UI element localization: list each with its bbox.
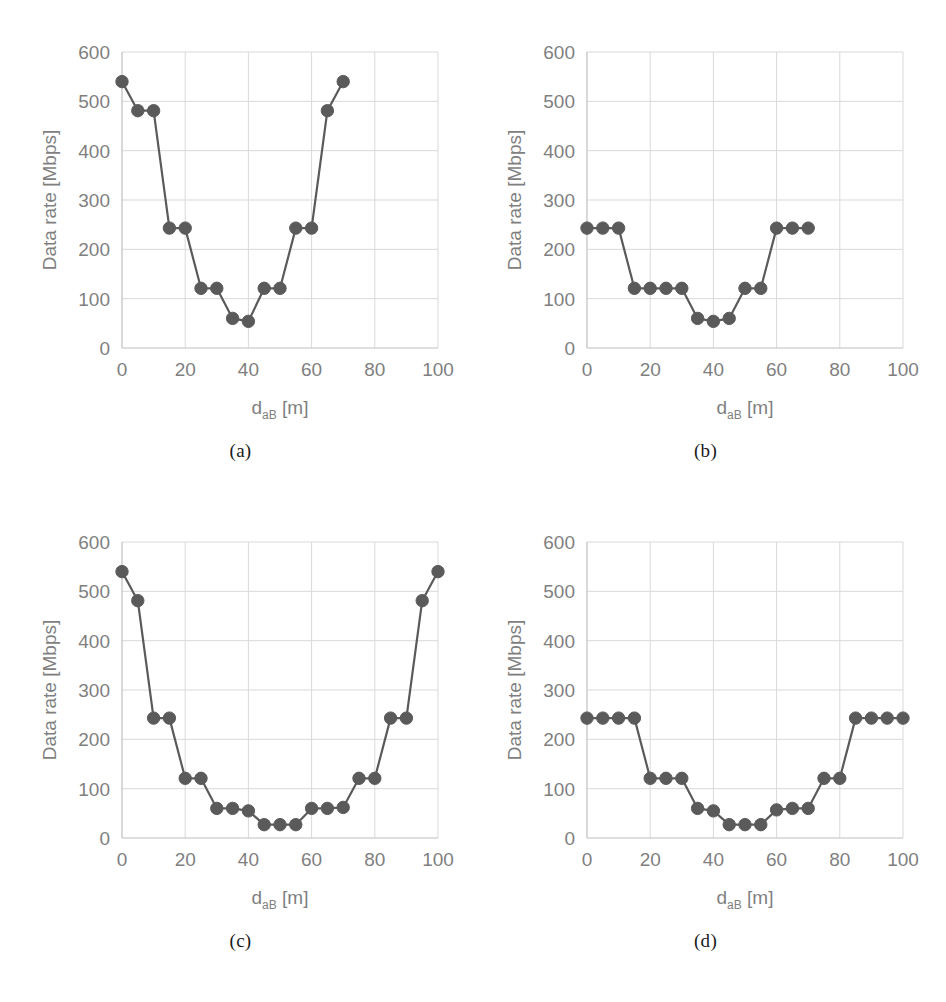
x-axis-title: daB [m]	[251, 887, 308, 912]
data-series-line	[122, 82, 343, 322]
data-series-line	[587, 718, 903, 825]
data-point-marker	[770, 222, 782, 234]
x-axis-title: daB [m]	[251, 397, 308, 422]
y-tick-label: 200	[78, 729, 110, 750]
data-point-marker	[368, 772, 380, 784]
y-tick-labels: 0100200300400500600	[78, 532, 110, 849]
data-point-marker	[644, 772, 656, 784]
y-tick-label: 400	[78, 631, 110, 652]
y-tick-label: 300	[543, 190, 575, 211]
x-tick-label: 60	[766, 359, 787, 380]
panel-caption-c: (c)	[230, 930, 252, 952]
data-point-marker	[384, 712, 396, 724]
data-point-marker	[115, 75, 127, 87]
data-point-marker	[707, 315, 719, 327]
panel-b: 0100200300400500600020406080100daB [m]Da…	[473, 18, 938, 502]
x-axis-title-main: d	[251, 397, 262, 418]
y-tick-labels: 0100200300400500600	[78, 42, 110, 359]
data-point-marker	[147, 105, 159, 117]
chart-b: 0100200300400500600020406080100daB [m]Da…	[491, 18, 921, 438]
x-tick-label: 40	[237, 359, 258, 380]
chart-plot-area: 0100200300400500600020406080100daB [m]Da…	[26, 508, 456, 928]
data-point-marker	[644, 282, 656, 294]
y-tick-label: 500	[543, 91, 575, 112]
data-point-marker	[833, 772, 845, 784]
y-tick-label: 500	[78, 91, 110, 112]
data-point-marker	[675, 282, 687, 294]
x-tick-label: 100	[422, 359, 454, 380]
data-point-marker	[163, 222, 175, 234]
data-series-line	[122, 572, 438, 825]
data-point-marker	[416, 595, 428, 607]
data-point-marker	[273, 282, 285, 294]
data-point-marker	[691, 312, 703, 324]
data-point-marker	[786, 802, 798, 814]
x-tick-label: 0	[581, 359, 592, 380]
y-tick-labels: 0100200300400500600	[543, 42, 575, 359]
y-tick-label: 400	[543, 631, 575, 652]
data-point-marker	[754, 818, 766, 830]
data-point-marker	[337, 75, 349, 87]
data-point-marker	[802, 222, 814, 234]
data-point-marker	[431, 565, 443, 577]
data-point-marker	[596, 222, 608, 234]
x-tick-labels: 020406080100	[116, 849, 453, 870]
x-axis-title-unit: [m]	[741, 397, 773, 418]
gridlines	[587, 52, 903, 348]
chart-plot-area: 0100200300400500600020406080100daB [m]Da…	[491, 508, 921, 928]
data-point-marker	[273, 818, 285, 830]
data-point-marker	[675, 772, 687, 784]
figure-four-panel-data-rate: 0100200300400500600020406080100daB [m]Da…	[0, 0, 946, 1002]
data-point-marker	[896, 712, 908, 724]
y-tick-label: 200	[78, 239, 110, 260]
x-tick-label: 80	[364, 849, 385, 870]
y-tick-label: 100	[543, 779, 575, 800]
x-tick-label: 80	[829, 359, 850, 380]
data-point-marker	[147, 712, 159, 724]
data-point-marker	[881, 712, 893, 724]
data-point-markers	[580, 712, 908, 831]
y-axis-title: Data rate [Mbps]	[504, 130, 525, 270]
y-tick-label: 500	[78, 581, 110, 602]
y-tick-label: 600	[543, 42, 575, 63]
chart-plot-area: 0100200300400500600020406080100daB [m]Da…	[26, 18, 456, 438]
x-axis-title-subscript: aB	[262, 408, 277, 422]
y-axis-title: Data rate [Mbps]	[504, 620, 525, 760]
data-point-marker	[321, 105, 333, 117]
data-point-marker	[352, 772, 364, 784]
x-axis-title-subscript: aB	[262, 898, 277, 912]
data-point-marker	[179, 222, 191, 234]
panel-caption-b: (b)	[694, 440, 717, 462]
x-tick-label: 80	[364, 359, 385, 380]
data-point-marker	[131, 105, 143, 117]
data-point-marker	[865, 712, 877, 724]
x-axis-title-main: d	[716, 397, 727, 418]
data-point-marker	[754, 282, 766, 294]
x-tick-label: 80	[829, 849, 850, 870]
data-point-marker	[337, 801, 349, 813]
data-point-marker	[321, 802, 333, 814]
x-tick-label: 100	[422, 849, 454, 870]
data-point-marker	[194, 282, 206, 294]
data-point-marker	[580, 712, 592, 724]
x-axis-title-subscript: aB	[727, 408, 742, 422]
x-axis-title-subscript: aB	[727, 898, 742, 912]
data-point-marker	[628, 282, 640, 294]
data-point-marker	[258, 818, 270, 830]
y-tick-labels: 0100200300400500600	[543, 532, 575, 849]
data-point-marker	[817, 772, 829, 784]
panel-d: 0100200300400500600020406080100daB [m]Da…	[473, 508, 938, 992]
y-axis-title: Data rate [Mbps]	[39, 620, 60, 760]
panel-caption-a: (a)	[230, 440, 252, 462]
data-point-marker	[131, 595, 143, 607]
x-tick-label: 0	[116, 849, 127, 870]
chart-d: 0100200300400500600020406080100daB [m]Da…	[491, 508, 921, 928]
gridlines	[587, 542, 903, 838]
gridlines	[122, 52, 438, 348]
data-point-marker	[738, 282, 750, 294]
y-axis-title: Data rate [Mbps]	[39, 130, 60, 270]
x-tick-label: 40	[702, 849, 723, 870]
data-point-marker	[691, 802, 703, 814]
chart-a: 0100200300400500600020406080100daB [m]Da…	[26, 18, 456, 438]
x-axis-title-unit: [m]	[276, 887, 308, 908]
